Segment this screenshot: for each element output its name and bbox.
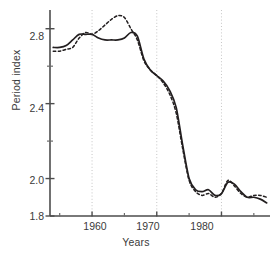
axis-ticks xyxy=(46,29,254,217)
gridlines xyxy=(92,10,221,216)
series-solid-curve xyxy=(53,32,267,203)
chart-figure: Period index 2.8 2.4 2.0 1.8 1960 1970 1… xyxy=(0,0,272,259)
data-series-layer xyxy=(53,16,267,203)
axis-spines xyxy=(50,10,270,216)
series-dashed-curve xyxy=(53,16,267,198)
plot-area xyxy=(0,0,272,259)
